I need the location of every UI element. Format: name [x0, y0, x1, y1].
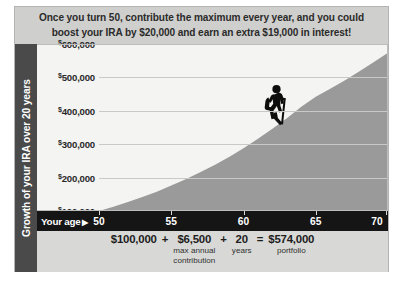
x-axis-arrow-icon: ▶ — [81, 218, 88, 227]
x-axis-tick-60: 60 — [238, 216, 249, 227]
x-axis-tickmark-65 — [316, 211, 317, 215]
x-axis-tick-55: 55 — [166, 216, 177, 227]
x-axis-tickmark-55 — [171, 211, 172, 215]
y-axis-tick-labels: $600,000$500,000$400,000$300,000$200,000… — [37, 44, 99, 211]
x-axis-tick-65: 65 — [310, 216, 321, 227]
currency-symbol: $ — [58, 105, 62, 114]
formula-annual-value: $6,500 — [177, 233, 211, 245]
gridline-300000 — [99, 144, 388, 145]
formula-total: $574,000 portfolio — [268, 233, 314, 256]
formula-principal-value: $100,000 — [111, 233, 157, 245]
plot-panel: $600,000$500,000$400,000$300,000$200,000… — [37, 44, 388, 211]
x-axis-tick-70: 70 — [371, 216, 382, 227]
formula-annual-sublabel-line2: contribution — [173, 256, 215, 265]
y-axis-title-bar: Growth of your IRA over 20 years — [15, 44, 37, 272]
x-axis-title-text: Your age — [41, 216, 81, 227]
formula-operator-equals: = — [252, 233, 269, 245]
formula-principal: $100,000 — [111, 233, 157, 245]
growth-area-series — [99, 44, 388, 211]
formula-years-sublabel: years — [232, 246, 252, 256]
ira-growth-infographic: Once you turn 50, contribute the maximum… — [0, 0, 403, 287]
formula-strip: $100,000 + $6,500 max annual contributio… — [37, 231, 388, 272]
y-axis-tick-400000: $400,000 — [58, 105, 95, 116]
plot-area — [99, 44, 388, 211]
y-axis-tick-200000: $200,000 — [58, 172, 95, 183]
hiker-icon — [262, 84, 296, 130]
gridline-200000 — [99, 178, 388, 179]
gridline-500000 — [99, 77, 388, 78]
formula-row: $100,000 + $6,500 max annual contributio… — [37, 233, 388, 265]
x-axis-bar: Your age▶ 5055606570 — [37, 211, 388, 231]
formula-years-value: 20 — [236, 233, 248, 245]
y-axis-tick-500000: $500,000 — [58, 72, 95, 83]
x-axis-tickmark-50 — [99, 211, 100, 215]
gridline-400000 — [99, 111, 388, 112]
formula-operator-plus-1: + — [157, 233, 174, 245]
headline-line-1: Once you turn 50, contribute the maximum… — [39, 12, 364, 23]
gridline-600000 — [99, 44, 388, 45]
y-axis-tick-600000: $600,000 — [58, 38, 95, 49]
currency-symbol: $ — [58, 139, 62, 148]
currency-symbol: $ — [58, 72, 62, 81]
x-axis-title: Your age▶ — [41, 216, 87, 227]
x-axis-tickmark-70 — [386, 211, 387, 215]
formula-annual: $6,500 max annual contribution — [173, 233, 215, 265]
y-axis-tick-300000: $300,000 — [58, 139, 95, 150]
formula-operator-plus-2: + — [215, 233, 232, 245]
x-axis-tickmark-60 — [244, 211, 245, 215]
formula-total-sublabel: portfolio — [277, 246, 306, 256]
formula-years: 20 years — [232, 233, 252, 256]
currency-symbol: $ — [58, 38, 62, 47]
formula-annual-sublabel-line1: max annual — [173, 246, 215, 255]
formula-total-value: $574,000 — [268, 233, 314, 245]
formula-annual-sublabel: max annual contribution — [173, 246, 215, 265]
currency-symbol: $ — [58, 172, 62, 181]
x-axis-tick-50: 50 — [93, 216, 104, 227]
y-axis-title: Growth of your IRA over 20 years — [21, 79, 32, 237]
